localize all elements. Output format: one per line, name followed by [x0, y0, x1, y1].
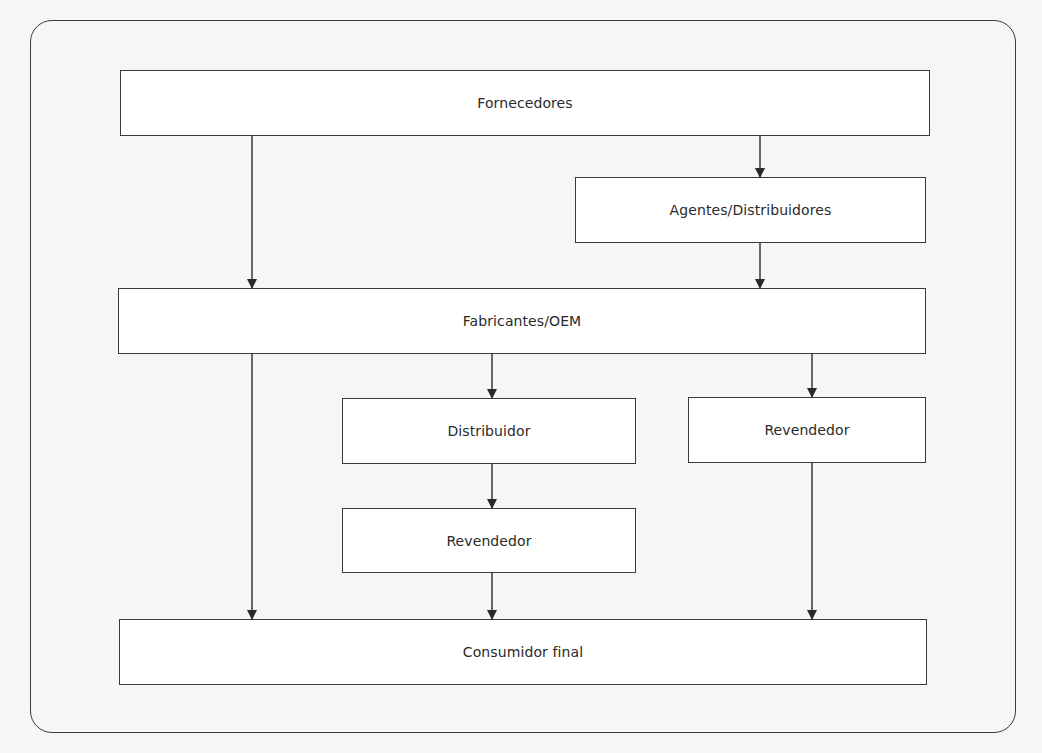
node-label: Fabricantes/OEM: [463, 313, 582, 329]
node-label: Fornecedores: [477, 95, 572, 111]
node-distribuidor: Distribuidor: [342, 398, 636, 464]
node-consumidor-final: Consumidor final: [119, 619, 927, 685]
node-fabricantes-oem: Fabricantes/OEM: [118, 288, 926, 354]
node-label: Revendedor: [446, 533, 531, 549]
node-agentes-distribuidores: Agentes/Distribuidores: [575, 177, 926, 243]
node-fornecedores: Fornecedores: [120, 70, 930, 136]
node-label: Agentes/Distribuidores: [670, 202, 832, 218]
node-revendedor-direto: Revendedor: [688, 397, 926, 463]
node-revendedor-via-distribuidor: Revendedor: [342, 508, 636, 573]
node-label: Consumidor final: [463, 644, 583, 660]
node-label: Distribuidor: [447, 423, 530, 439]
node-label: Revendedor: [764, 422, 849, 438]
